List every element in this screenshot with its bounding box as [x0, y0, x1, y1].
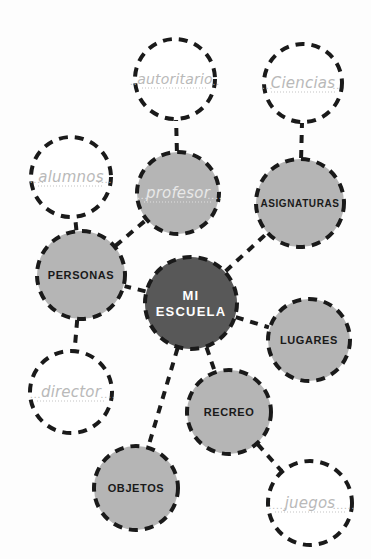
node-label-asignaturas: ASIGNATURAS	[260, 198, 339, 209]
connector-center-to-lugares	[236, 317, 269, 327]
node-layer: MIESCUELAPERSONASASIGNATURASLUGARESRECRE…	[30, 39, 356, 545]
node-label-alumnos: alumnos	[38, 168, 103, 186]
leader-dots-right-autoritario: ..	[212, 76, 220, 87]
leader-dots-right-director: ....	[101, 389, 116, 400]
node-profesor[interactable]: .......profesor	[137, 152, 223, 234]
node-label-recreo: RECREO	[204, 406, 255, 418]
node-circle-center[interactable]	[145, 257, 237, 349]
connector-personas-to-alumnos	[75, 218, 76, 230]
leader-dots-left-director: ...	[30, 389, 41, 400]
node-label-lugares: LUGARES	[280, 334, 338, 346]
mindmap-canvas: MIESCUELAPERSONASASIGNATURASLUGARESRECRE…	[0, 0, 371, 559]
node-label-director: director	[41, 383, 102, 401]
connector-center-to-asignaturas	[226, 233, 267, 271]
connector-center-to-objetos	[148, 348, 177, 447]
node-label-center-line2: ESCUELA	[156, 304, 227, 319]
connector-personas-to-profesor	[115, 220, 145, 246]
node-label-profesor: profesor	[145, 184, 211, 202]
node-alumnos[interactable]: ........alumnos	[30, 137, 113, 217]
connector-asignaturas-to-ciencias	[301, 123, 302, 158]
node-label-ciencias: Ciencias	[271, 74, 335, 92]
node-ciencias[interactable]: .....Ciencias	[262, 44, 342, 122]
node-label-personas: PERSONAS	[48, 269, 115, 281]
node-autoritario[interactable]: ....autoritario	[130, 39, 220, 119]
connector-center-to-recreo	[207, 347, 215, 371]
node-center[interactable]: MIESCUELA	[145, 257, 237, 349]
connector-recreo-to-juegos	[258, 444, 282, 471]
node-lugares[interactable]: LUGARES	[268, 299, 350, 381]
connector-profesor-to-autoritario	[176, 120, 177, 151]
leader-dots-right-juegos: ......	[333, 500, 356, 511]
node-objetos[interactable]: OBJETOS	[94, 446, 178, 530]
node-personas[interactable]: PERSONAS	[37, 231, 125, 319]
connector-personas-to-director	[75, 320, 78, 350]
node-label-objetos: OBJETOS	[108, 482, 165, 494]
node-label-center-line1: MI	[183, 288, 200, 303]
mindmap-svg: MIESCUELAPERSONASASIGNATURASLUGARESRECRE…	[0, 0, 371, 559]
node-label-juegos: juegos	[283, 494, 336, 512]
connector-center-to-personas	[125, 286, 146, 291]
node-juegos[interactable]: ...........juegos	[268, 461, 355, 545]
node-recreo[interactable]: RECREO	[187, 370, 271, 454]
node-director[interactable]: .......director	[30, 351, 116, 433]
node-label-autoritario: autoritario	[137, 71, 213, 87]
node-asignaturas[interactable]: ASIGNATURAS	[256, 159, 344, 247]
